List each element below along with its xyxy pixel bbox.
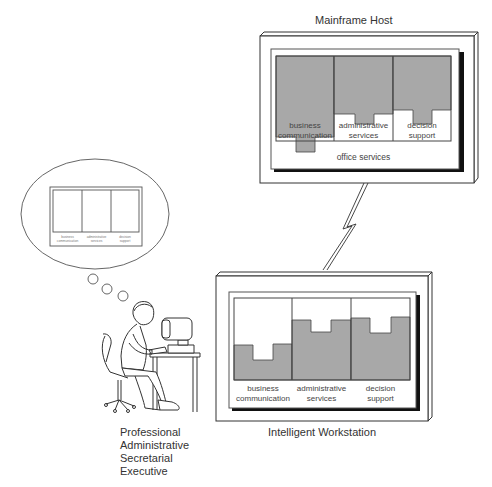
user-at-workstation-icon — [102, 302, 200, 413]
thought-bubble — [21, 159, 169, 301]
workstation-col-business: business communication — [234, 384, 292, 404]
mainframe-footer: office services — [276, 152, 451, 162]
col-label-line2: communication — [234, 394, 292, 404]
col-label-line2: support — [393, 131, 451, 141]
mainframe-title: Mainframe Host — [315, 14, 393, 26]
mainframe-col-administrative: administrative services — [334, 121, 393, 141]
col-label-line1: decision — [351, 384, 410, 394]
user-roles-list: Professional Administrative Secretarial … — [120, 426, 189, 478]
role-executive: Executive — [120, 465, 189, 478]
role-administrative: Administrative — [120, 439, 189, 452]
workstation-col-decision: decision support — [351, 384, 410, 404]
role-secretarial: Secretarial — [120, 452, 189, 465]
mainframe-col-business: business communication — [276, 121, 334, 141]
col-label-line1: decision — [393, 121, 451, 131]
bubble-col-business: business communication — [53, 235, 82, 243]
diagram-canvas — [0, 0, 492, 487]
workstation-title: Intelligent Workstation — [268, 426, 376, 438]
col-label-line2: communication — [276, 131, 334, 141]
col-label-line2: support — [111, 239, 139, 243]
mainframe-col-decision: decision support — [393, 121, 451, 141]
col-label-line1: administrative — [292, 384, 351, 394]
communication-link-icon — [323, 183, 368, 270]
col-label-line2: communication — [53, 239, 82, 243]
col-label-line2: support — [351, 394, 410, 404]
col-label-line1: business — [276, 121, 334, 131]
workstation-col-administrative: administrative services — [292, 384, 351, 404]
col-label-line1: administrative — [334, 121, 393, 131]
bubble-col-decision: decision support — [111, 235, 139, 243]
role-professional: Professional — [120, 426, 189, 439]
bubble-col-administrative: administrative services — [82, 235, 111, 243]
col-label-line1: business — [234, 384, 292, 394]
col-label-line2: services — [334, 131, 393, 141]
col-label-line2: services — [292, 394, 351, 404]
col-label-line2: services — [82, 239, 111, 243]
